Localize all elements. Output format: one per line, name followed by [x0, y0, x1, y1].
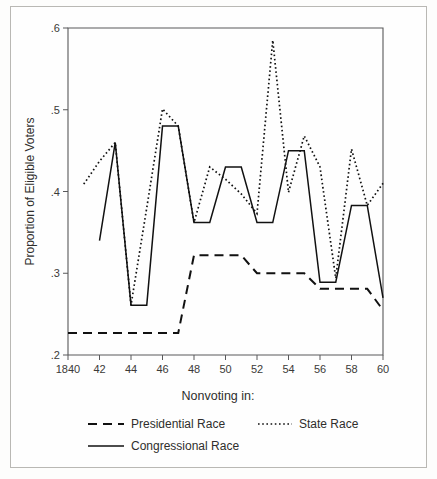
x-tick-label: 42 [93, 363, 105, 375]
x-tick-label: 58 [345, 363, 357, 375]
x-tick-label: 56 [314, 363, 326, 375]
y-tick-label: .2 [51, 349, 60, 361]
legend-title: Nonvoting in: [182, 389, 255, 403]
series-line-dashed [68, 255, 383, 333]
x-tick-label: 54 [282, 363, 294, 375]
y-axis-title: Proportion of Eligible Voters [23, 117, 37, 265]
series-line-dotted [84, 40, 383, 305]
x-tick-label: 44 [125, 363, 137, 375]
y-tick-label: .6 [51, 22, 60, 34]
y-tick-label: .4 [51, 186, 60, 198]
legend-label: Presidential Race [131, 417, 225, 431]
x-tick-label: 50 [219, 363, 231, 375]
series-line-solid [100, 126, 384, 305]
legend-label: State Race [299, 417, 359, 431]
x-tick-label: 48 [188, 363, 200, 375]
plot-frame [68, 28, 383, 355]
line-chart: .2.3.4.5.6184042444648505254565860Propor… [0, 0, 437, 479]
x-tick-label: 60 [377, 363, 389, 375]
x-tick-label: 52 [251, 363, 263, 375]
x-tick-label: 46 [156, 363, 168, 375]
x-tick-label: 1840 [56, 363, 80, 375]
y-tick-label: .5 [51, 104, 60, 116]
figure-container: .2.3.4.5.6184042444648505254565860Propor… [0, 0, 437, 479]
legend-label: Congressional Race [131, 439, 239, 453]
y-tick-label: .3 [51, 267, 60, 279]
